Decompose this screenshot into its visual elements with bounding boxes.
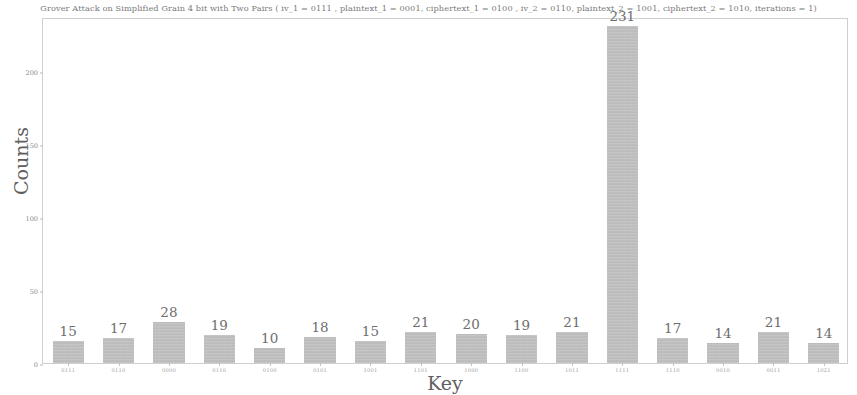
bar-group[interactable]: 150111 bbox=[53, 19, 84, 363]
bar-group[interactable]: 151001 bbox=[355, 19, 386, 363]
bar-value-label: 15 bbox=[362, 323, 379, 339]
y-axis-tick-mark bbox=[40, 365, 43, 366]
bar-value-label: 19 bbox=[513, 317, 530, 333]
x-axis-tick-mark bbox=[270, 363, 271, 366]
y-axis-tick-mark bbox=[40, 73, 43, 74]
bar-group[interactable]: 141021 bbox=[808, 19, 839, 363]
x-axis-tick-mark bbox=[773, 363, 774, 366]
bar-value-label: 14 bbox=[815, 325, 832, 341]
x-axis-tick-mark bbox=[471, 363, 472, 366]
bar[interactable] bbox=[707, 343, 738, 363]
x-axis-tick-mark bbox=[219, 363, 220, 366]
y-axis-tick-mark bbox=[40, 146, 43, 147]
bar-value-label: 231 bbox=[609, 8, 635, 24]
bar-value-label: 18 bbox=[311, 319, 328, 335]
y-axis-tick-mark bbox=[40, 292, 43, 293]
y-axis-tick-label: 50 bbox=[30, 288, 38, 296]
bar-value-label: 15 bbox=[60, 323, 77, 339]
bar[interactable] bbox=[506, 335, 537, 363]
bar[interactable] bbox=[808, 343, 839, 363]
chart-title: Grover Attack on Simplified Grain 4 bit … bbox=[0, 3, 857, 14]
bar-group[interactable]: 191100 bbox=[506, 19, 537, 363]
bar-value-label: 10 bbox=[261, 330, 278, 346]
x-axis-tick-mark bbox=[673, 363, 674, 366]
bar[interactable] bbox=[657, 338, 688, 363]
plot-inner: 0501001502001501111701102800001901101001… bbox=[43, 19, 847, 363]
bar-value-label: 21 bbox=[765, 314, 782, 330]
x-axis-tick-mark bbox=[723, 363, 724, 366]
bar-group[interactable]: 180101 bbox=[304, 19, 335, 363]
bar[interactable] bbox=[556, 332, 587, 363]
x-axis-tick-mark bbox=[320, 363, 321, 366]
bar[interactable] bbox=[355, 341, 386, 363]
bar[interactable] bbox=[456, 334, 487, 363]
bar-group[interactable]: 211011 bbox=[556, 19, 587, 363]
x-axis-tick-mark bbox=[68, 363, 69, 366]
bar[interactable] bbox=[53, 341, 84, 363]
bar-group[interactable]: 140010 bbox=[707, 19, 738, 363]
bar[interactable] bbox=[254, 348, 285, 363]
bar[interactable] bbox=[103, 338, 134, 363]
bar-value-label: 21 bbox=[563, 314, 580, 330]
bar-group[interactable]: 211101 bbox=[405, 19, 436, 363]
x-axis-tick-mark bbox=[370, 363, 371, 366]
y-axis-tick-label: 100 bbox=[26, 215, 38, 223]
bar-value-label: 17 bbox=[664, 320, 681, 336]
x-axis-tick-mark bbox=[572, 363, 573, 366]
bar-group[interactable]: 100100 bbox=[254, 19, 285, 363]
bar[interactable] bbox=[153, 322, 184, 363]
bar-group[interactable]: 201000 bbox=[456, 19, 487, 363]
x-axis-tick-mark bbox=[169, 363, 170, 366]
bar-group[interactable]: 171110 bbox=[657, 19, 688, 363]
x-axis-label: Key bbox=[42, 372, 848, 394]
bar-value-label: 20 bbox=[463, 316, 480, 332]
bar[interactable] bbox=[204, 335, 235, 363]
bar-value-label: 14 bbox=[714, 325, 731, 341]
bar-group[interactable]: 170110 bbox=[103, 19, 134, 363]
bar-value-label: 19 bbox=[211, 317, 228, 333]
x-axis-tick-mark bbox=[622, 363, 623, 366]
x-axis-tick-mark bbox=[421, 363, 422, 366]
y-axis-tick-label: 200 bbox=[26, 69, 38, 77]
bar-value-label: 17 bbox=[110, 320, 127, 336]
y-axis-tick-mark bbox=[40, 219, 43, 220]
x-axis-tick-mark bbox=[824, 363, 825, 366]
bar[interactable] bbox=[304, 337, 335, 363]
bar[interactable] bbox=[607, 26, 638, 363]
bar[interactable] bbox=[405, 332, 436, 363]
plot-area: 0501001502001501111701102800001901101001… bbox=[42, 18, 848, 364]
y-axis-label: Counts bbox=[10, 101, 32, 221]
bar-value-label: 28 bbox=[160, 304, 177, 320]
chart-figure: Grover Attack on Simplified Grain 4 bit … bbox=[0, 0, 857, 395]
x-axis-tick-mark bbox=[522, 363, 523, 366]
bar-value-label: 21 bbox=[412, 314, 429, 330]
bar-group[interactable]: 190110 bbox=[204, 19, 235, 363]
bar[interactable] bbox=[758, 332, 789, 363]
bar-group[interactable]: 210011 bbox=[758, 19, 789, 363]
bar-group[interactable]: 280000 bbox=[153, 19, 184, 363]
x-axis-tick-mark bbox=[119, 363, 120, 366]
y-axis-tick-label: 150 bbox=[26, 142, 38, 150]
y-axis-tick-label: 0 bbox=[34, 361, 38, 369]
bar-group[interactable]: 2311111 bbox=[607, 19, 638, 363]
